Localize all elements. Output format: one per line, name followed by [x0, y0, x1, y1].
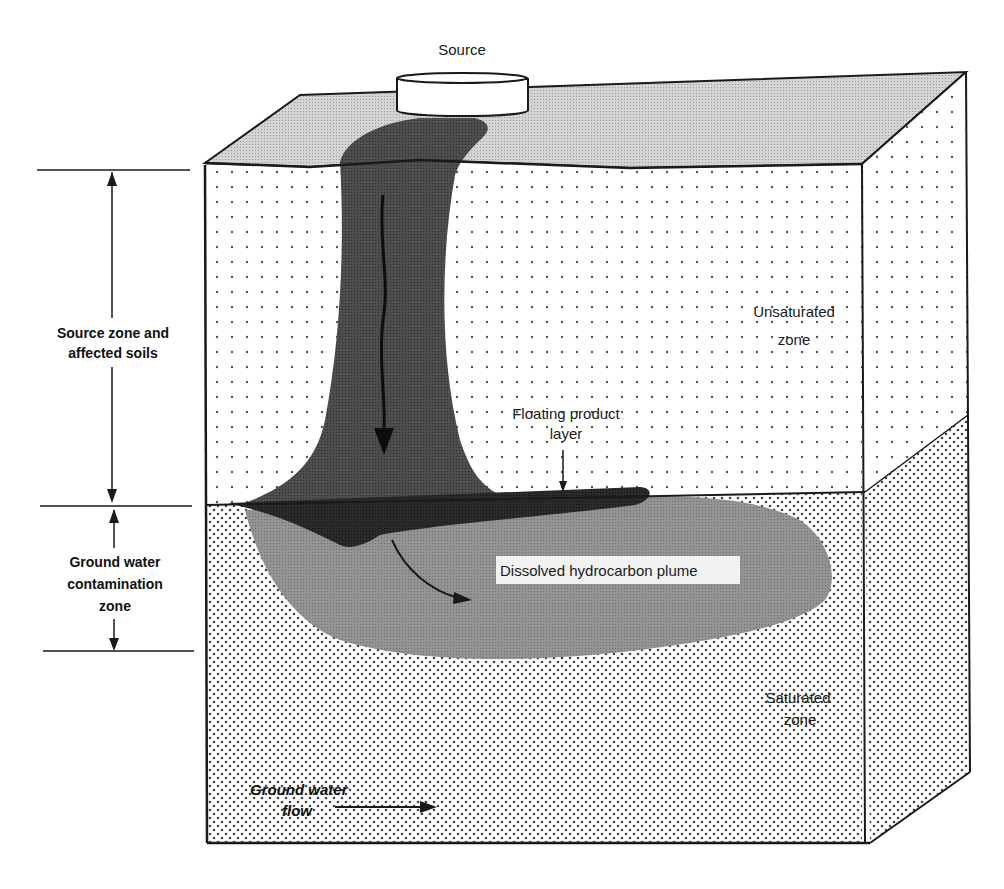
- groundwater-zone-label-line1: Ground water: [69, 554, 161, 570]
- contamination-block-diagram: Source Source zone and affected soils Gr…: [0, 0, 1004, 889]
- groundwater-zone-label-line3: zone: [99, 598, 131, 614]
- dissolved-plume-label: Dissolved hydrocarbon plume: [500, 562, 698, 579]
- groundwater-zone-label-line2: contamination: [67, 576, 163, 592]
- ground-surface: [205, 72, 966, 168]
- source-zone-label-line2: affected soils: [68, 345, 158, 361]
- saturated-zone-label-line2: zone: [784, 711, 817, 728]
- unsaturated-zone-label-line1: Unsaturated: [753, 303, 835, 320]
- source-zone-label-line1: Source zone and: [57, 325, 169, 341]
- source-tank: [397, 73, 528, 116]
- unsaturated-zone-label-line2: zone: [778, 331, 811, 348]
- floating-product-label-line2: layer: [550, 425, 583, 442]
- floating-product-label-line1: Floating product: [512, 405, 620, 422]
- saturated-zone-label-line1: Saturated: [765, 689, 830, 706]
- ground-water-flow-label-line1: Ground water: [250, 781, 349, 798]
- source-label: Source: [438, 41, 486, 58]
- ground-water-flow-label-line2: flow: [282, 802, 313, 819]
